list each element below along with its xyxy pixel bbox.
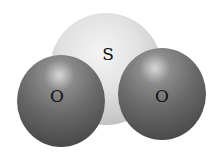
oxygen-label-left: O (50, 86, 64, 106)
oxygen-label-right: O (155, 86, 169, 106)
sulfur-label: S (102, 44, 114, 64)
